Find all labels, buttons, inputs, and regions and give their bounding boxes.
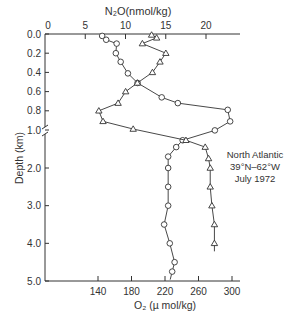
y-tick-label: 0.6 <box>27 86 41 97</box>
triangle-marker-icon <box>209 202 215 207</box>
triangle-marker-icon <box>115 100 121 105</box>
triangle-marker-icon <box>100 118 106 123</box>
triangle-marker-icon <box>122 88 128 93</box>
y-tick-label: 2.0 <box>27 163 41 174</box>
circle-marker-icon <box>172 259 178 265</box>
circle-marker-icon <box>103 37 109 43</box>
circle-marker-icon <box>165 165 171 171</box>
circle-marker-icon <box>125 71 131 77</box>
annotation-region: North Atlantic <box>227 149 284 160</box>
circle-marker-icon <box>167 241 173 247</box>
y-tick-label: 0.0 <box>27 29 41 40</box>
circle-marker-icon <box>165 184 171 190</box>
bottom-tick-label: 260 <box>190 286 207 297</box>
circle-marker-icon <box>161 222 167 228</box>
y-tick-label: 5.0 <box>27 276 41 287</box>
depth-profile-chart: 0.00.20.40.60.81.02.03.04.05.00510152014… <box>0 0 287 324</box>
circle-marker-icon <box>159 95 165 101</box>
triangle-marker-icon <box>211 221 217 226</box>
top-tick-label: 15 <box>160 20 172 31</box>
triangle-marker-icon <box>205 155 211 160</box>
annotation-date: July 1972 <box>235 173 276 184</box>
bottom-tick-label: 220 <box>157 286 174 297</box>
top-tick-label: 10 <box>120 20 132 31</box>
bottom-tick-label: 140 <box>90 286 107 297</box>
bottom-tick-label: 300 <box>224 286 241 297</box>
top-tick-label: 5 <box>82 20 88 31</box>
circle-marker-icon <box>169 269 175 275</box>
top-tick-label: 0 <box>45 20 51 31</box>
triangle-marker-icon <box>207 184 213 189</box>
y-tick-label: 0.4 <box>27 67 41 78</box>
top-axis-label: N₂O(nmol/kg) <box>105 5 172 17</box>
triangle-marker-icon <box>211 240 217 245</box>
y-tick-label: 1.0 <box>27 125 41 136</box>
triangle-marker-icon <box>157 59 163 64</box>
circle-marker-icon <box>212 128 218 134</box>
circle-marker-icon <box>114 41 120 47</box>
bottom-axis-label: O₂ (µ mol/kg) <box>134 299 196 311</box>
circle-marker-icon <box>175 100 181 106</box>
circle-marker-icon <box>118 59 124 65</box>
o2-series <box>96 32 218 252</box>
circle-marker-icon <box>225 107 231 113</box>
y-tick-label: 4.0 <box>27 238 41 249</box>
y-axis-label: Depth (km) <box>13 132 25 184</box>
circle-marker-icon <box>165 203 171 209</box>
bottom-tick-label: 180 <box>123 286 140 297</box>
series-layer <box>96 32 233 280</box>
y-tick-label: 3.0 <box>27 200 41 211</box>
y-tick-label: 0.2 <box>27 48 41 59</box>
top-tick-label: 20 <box>200 20 212 31</box>
triangle-marker-icon <box>207 165 213 170</box>
circle-marker-icon <box>113 50 119 56</box>
annotation-coordinates: 39°N–62°W <box>230 161 280 172</box>
y-tick-label: 0.8 <box>27 105 41 116</box>
circle-marker-icon <box>165 154 171 160</box>
circle-marker-icon <box>173 144 179 150</box>
circle-marker-icon <box>227 119 233 125</box>
